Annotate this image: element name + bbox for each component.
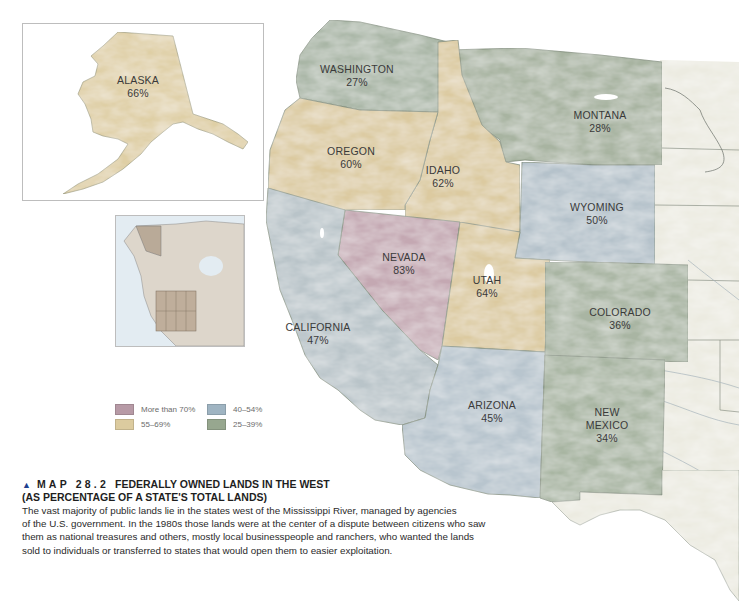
- label-arizona-percent: 45%: [481, 412, 503, 424]
- label-washington-name: WASHINGTON: [320, 63, 394, 75]
- legend-label: 40–54%: [233, 405, 262, 414]
- label-utah-name: UTAH: [473, 274, 502, 286]
- legend-swatch-pink: [115, 404, 134, 415]
- caption-title: ▲MAP 28.2FEDERALLY OWNED LANDS IN THE WE…: [22, 478, 542, 491]
- caption-body-line: The vast majority of public lands lie in…: [22, 504, 542, 517]
- label-california-name: CALIFORNIA: [285, 321, 350, 333]
- triangle-marker-icon: ▲: [22, 480, 31, 490]
- legend-swatch-green: [207, 419, 226, 430]
- label-montana-name: MONTANA: [573, 109, 626, 121]
- caption-body-line: sold to individuals or transferred to st…: [22, 544, 542, 557]
- label-alaska-name: ALASKA: [117, 74, 159, 86]
- label-wyoming-name: WYOMING: [570, 201, 624, 213]
- legend-label: More than 70%: [141, 405, 195, 414]
- caption-body-line: them as national treasures and others, m…: [22, 530, 542, 543]
- caption-body-line: of the U.S. government. In the 1980s tho…: [22, 517, 542, 530]
- label-colorado-percent: 36%: [609, 319, 631, 331]
- label-nevada-percent: 83%: [393, 264, 415, 276]
- label-idaho-percent: 62%: [432, 177, 454, 189]
- legend-item-40-54: 40–54%: [207, 404, 277, 415]
- label-new-mexico-percent: 34%: [596, 432, 618, 444]
- legend-item-25-39: 25–39%: [207, 419, 277, 430]
- alaska-shape: [63, 32, 248, 194]
- alaska-map: ALASKA 66%: [23, 24, 263, 200]
- label-wyoming-percent: 50%: [586, 214, 608, 226]
- north-america-locator-map: [116, 216, 244, 346]
- legend-item-more-than-70: More than 70%: [115, 404, 207, 415]
- legend-label: 55–69%: [141, 420, 170, 429]
- label-oregon-percent: 60%: [340, 158, 362, 170]
- legend-item-55-69: 55–69%: [115, 419, 207, 430]
- label-colorado-name: COLORADO: [589, 306, 651, 318]
- state-wyoming: [515, 162, 655, 265]
- label-new-mexico-name-2: MEXICO: [586, 419, 629, 431]
- legend-swatch-tan: [115, 419, 134, 430]
- label-washington-percent: 27%: [346, 76, 368, 88]
- alaska-inset: ALASKA 66%: [22, 23, 264, 201]
- caption-body: The vast majority of public lands lie in…: [22, 504, 542, 557]
- label-idaho-name: IDAHO: [426, 164, 460, 176]
- locator-inset: [115, 215, 245, 347]
- label-new-mexico-name-1: NEW: [594, 406, 619, 418]
- legend-label: 25–39%: [233, 420, 262, 429]
- label-montana-percent: 28%: [589, 122, 611, 134]
- label-utah-percent: 64%: [476, 287, 498, 299]
- label-nevada-name: NEVADA: [382, 251, 426, 263]
- label-alaska-percent: 66%: [127, 87, 149, 99]
- label-california-percent: 47%: [307, 334, 329, 346]
- label-arizona-name: ARIZONA: [468, 399, 516, 411]
- label-oregon-name: OREGON: [327, 145, 375, 157]
- legend-swatch-blue: [207, 404, 226, 415]
- map-caption: ▲MAP 28.2FEDERALLY OWNED LANDS IN THE WE…: [22, 478, 542, 557]
- caption-title-line2: (AS PERCENTAGE OF A STATE'S TOTAL LANDS): [22, 491, 542, 503]
- map-legend: More than 70% 40–54% 55–69% 25–39%: [115, 404, 277, 430]
- caption-title-line1: FEDERALLY OWNED LANDS IN THE WEST: [115, 478, 330, 490]
- map-number: MAP 28.2: [37, 478, 109, 490]
